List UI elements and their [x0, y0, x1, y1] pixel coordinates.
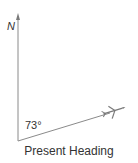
heading-diagram: N 73° Present Heading: [0, 0, 138, 163]
diagram-canvas: [0, 0, 138, 163]
diagram-caption: Present Heading: [0, 144, 138, 158]
north-label: N: [7, 20, 15, 32]
angle-label: 73°: [25, 119, 42, 131]
airplane-icon: [101, 101, 128, 120]
arrow-up-icon: [16, 13, 20, 20]
